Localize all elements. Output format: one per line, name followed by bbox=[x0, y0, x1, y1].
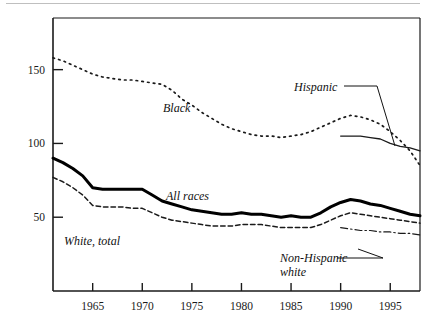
chart-axes bbox=[53, 18, 420, 291]
chart-ticks: 501001501965197019751980198519901995 bbox=[28, 64, 402, 312]
x-tick-label-1990: 1990 bbox=[329, 300, 352, 312]
series-line-all-races bbox=[53, 158, 420, 217]
hispanic-label: Hispanic bbox=[293, 80, 338, 94]
series-line-non-hispanic-white bbox=[341, 228, 420, 235]
white-label: White, total bbox=[64, 234, 121, 248]
non-hispanic-white-leader-line bbox=[348, 249, 383, 258]
nhw-label-1: Non-Hispanic bbox=[279, 251, 348, 265]
x-tick-label-1985: 1985 bbox=[280, 300, 303, 312]
all-races-label: All races bbox=[165, 189, 209, 203]
series-line-black bbox=[53, 58, 420, 166]
x-tick-label-1970: 1970 bbox=[131, 300, 154, 312]
chart-series-group bbox=[53, 58, 420, 235]
black-label: Black bbox=[163, 101, 191, 115]
chart-figure: 501001501965197019751980198519901995 Bla… bbox=[0, 0, 434, 323]
chart-annotations: BlackAll racesWhite, totalHispanicNon-Hi… bbox=[64, 80, 348, 279]
x-tick-label-1995: 1995 bbox=[379, 300, 402, 312]
x-tick-label-1980: 1980 bbox=[230, 300, 253, 312]
nhw-label-2: white bbox=[280, 265, 307, 279]
x-tick-label-1975: 1975 bbox=[180, 300, 203, 312]
line-chart-canvas: 501001501965197019751980198519901995 Bla… bbox=[0, 0, 434, 323]
y-tick-label-50: 50 bbox=[34, 211, 46, 223]
x-tick-label-1965: 1965 bbox=[81, 300, 104, 312]
y-tick-label-150: 150 bbox=[28, 64, 46, 76]
y-tick-label-100: 100 bbox=[28, 137, 46, 149]
